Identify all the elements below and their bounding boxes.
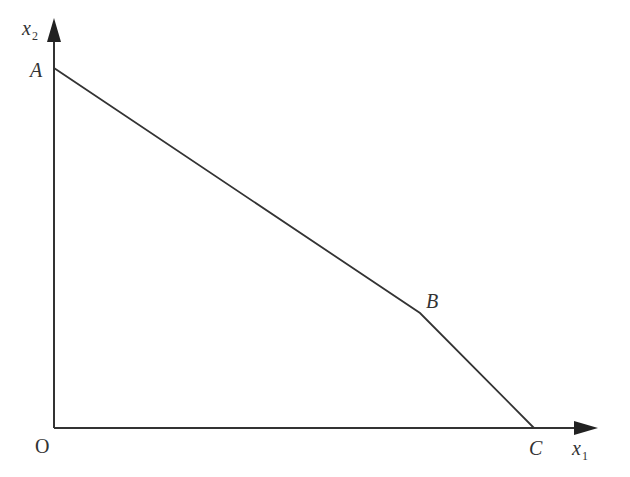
x-axis-arrow-icon [574,421,598,435]
origin-label: O [35,436,49,456]
point-label-c: C [529,438,542,458]
diagram-canvas: x2 A B C O x1 [0,0,630,477]
frontier-line-abc [54,68,534,428]
point-label-a: A [30,60,42,80]
diagram-svg [0,0,630,477]
x-axis-label: x1 [572,438,588,462]
point-label-b: B [426,291,438,311]
y-axis-arrow-icon [47,18,61,42]
y-axis-label: x2 [22,18,38,42]
